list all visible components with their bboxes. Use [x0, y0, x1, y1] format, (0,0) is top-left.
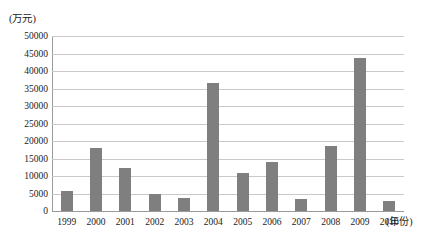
y-axis-tick-label: 45000: [24, 49, 48, 59]
x-axis-tick-label: 2000: [87, 216, 106, 228]
gridline: [52, 211, 404, 212]
y-axis-tick-label: 20000: [24, 136, 48, 146]
bar: [325, 146, 337, 211]
y-axis-tick-label: 30000: [24, 101, 48, 111]
x-axis-tick-label: 2001: [116, 216, 135, 228]
plot-area: [52, 36, 404, 211]
bar: [119, 168, 131, 211]
bar: [61, 191, 73, 211]
bar: [90, 148, 102, 211]
bar: [149, 194, 161, 211]
bar: [178, 198, 190, 211]
x-axis-title: (年份): [386, 216, 413, 228]
x-axis-tick-label: 2004: [204, 216, 223, 228]
y-axis-tick-label: 35000: [24, 84, 48, 94]
bar: [354, 58, 366, 211]
y-axis-tick-label: 10000: [24, 171, 48, 181]
y-axis-tick-label: 15000: [24, 154, 48, 164]
x-axis-tick-label: 2003: [175, 216, 194, 228]
y-axis-tick-label: 25000: [24, 119, 48, 129]
y-axis-tick-labels: 5000045000400003500030000250002000015000…: [0, 0, 48, 249]
x-axis-tick-label: 2002: [145, 216, 164, 228]
x-axis-tick-label: 2007: [292, 216, 311, 228]
y-axis-tick-label: 40000: [24, 66, 48, 76]
bar: [383, 201, 395, 211]
bar: [266, 162, 278, 211]
x-axis-tick-labels: 1999200020012002200320042005200620072008…: [52, 216, 404, 232]
bar-series: [52, 36, 404, 211]
x-axis-tick-label: 2009: [351, 216, 370, 228]
y-axis-tick-label: 50000: [24, 31, 48, 41]
bar-chart: (万元) 50000450004000035000300002500020000…: [0, 0, 435, 249]
y-axis-tick-label: 0: [43, 206, 48, 216]
x-axis-tick-label: 2005: [233, 216, 252, 228]
bar: [207, 83, 219, 211]
bar: [295, 199, 307, 211]
bar: [237, 173, 249, 211]
x-axis-tick-label: 2008: [321, 216, 340, 228]
y-axis-tick-label: 5000: [29, 189, 48, 199]
x-axis-tick-label: 1999: [57, 216, 76, 228]
x-axis-tick-label: 2006: [263, 216, 282, 228]
